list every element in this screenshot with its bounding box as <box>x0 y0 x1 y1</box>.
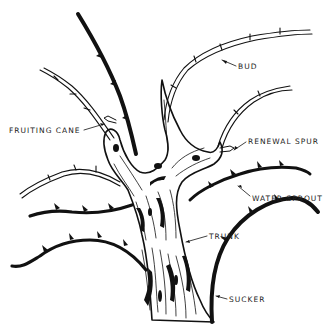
label-bud: BUD <box>238 63 257 71</box>
grapevine-diagram: BUD FRUITING CANE RENEWAL SPUR WATER SPR… <box>0 0 335 330</box>
label-fruiting-cane: FRUITING CANE <box>9 127 81 135</box>
label-water-sprout: WATER SPROUT <box>252 195 323 203</box>
left-light-cane <box>20 165 120 198</box>
label-renewal-spur: RENEWAL SPUR <box>248 138 319 146</box>
vine-illustration <box>0 0 335 330</box>
left-dark-cane-upper <box>30 205 132 216</box>
label-trunk: TRUNK <box>209 233 240 241</box>
bud-cane <box>164 28 312 122</box>
label-sucker: SUCKER <box>229 296 265 304</box>
trunk-shape <box>104 80 222 322</box>
